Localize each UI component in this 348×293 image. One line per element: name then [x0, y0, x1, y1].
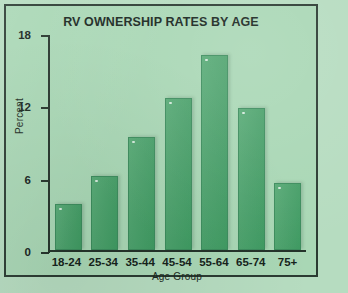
y-tick-0: 0 — [41, 252, 49, 254]
x-tick-label-3: 45-54 — [159, 256, 196, 268]
y-tick-6: 6 — [41, 180, 49, 182]
bar-slot — [123, 35, 160, 250]
x-tick-label-4: 55-64 — [195, 256, 232, 268]
bar-55-64 — [201, 55, 228, 250]
chart-frame: RV OWNERSHIP RATES BY AGE Percent 18 12 … — [4, 4, 318, 277]
x-tick-label-2: 35-44 — [122, 256, 159, 268]
y-tick-label-18: 18 — [18, 29, 31, 41]
x-tick-label-1: 25-34 — [85, 256, 122, 268]
plot-area: 18 12 6 0 — [48, 35, 306, 252]
y-tick-label-12: 12 — [18, 101, 31, 113]
bar-65-74 — [238, 108, 265, 250]
y-tick-label-6: 6 — [25, 174, 31, 186]
x-axis-line — [48, 250, 306, 252]
bar-slot — [160, 35, 197, 250]
bar-18-24 — [55, 204, 82, 250]
x-axis-title: Age Group — [48, 271, 306, 282]
x-tick-label-0: 18-24 — [48, 256, 85, 268]
y-tick-label-0: 0 — [25, 246, 31, 258]
x-tick-label-6: 75+ — [269, 256, 306, 268]
bar-slot — [196, 35, 233, 250]
bar-slot — [87, 35, 124, 250]
bar-series — [50, 35, 306, 250]
y-tick-12: 12 — [41, 107, 49, 109]
bar-slot — [269, 35, 306, 250]
bar-slot — [50, 35, 87, 250]
bar-35-44 — [128, 137, 155, 250]
chart-page: RV OWNERSHIP RATES BY AGE Percent 18 12 … — [0, 0, 348, 293]
x-tick-label-5: 65-74 — [232, 256, 269, 268]
chart-title: RV OWNERSHIP RATES BY AGE — [6, 15, 316, 29]
bar-75-plus — [274, 183, 301, 251]
bar-45-54 — [165, 98, 192, 250]
x-axis-tick-labels: 18-24 25-34 35-44 45-54 55-64 65-74 75+ — [48, 256, 306, 268]
bar-slot — [233, 35, 270, 250]
y-tick-18: 18 — [41, 35, 49, 37]
bar-25-34 — [91, 176, 118, 250]
